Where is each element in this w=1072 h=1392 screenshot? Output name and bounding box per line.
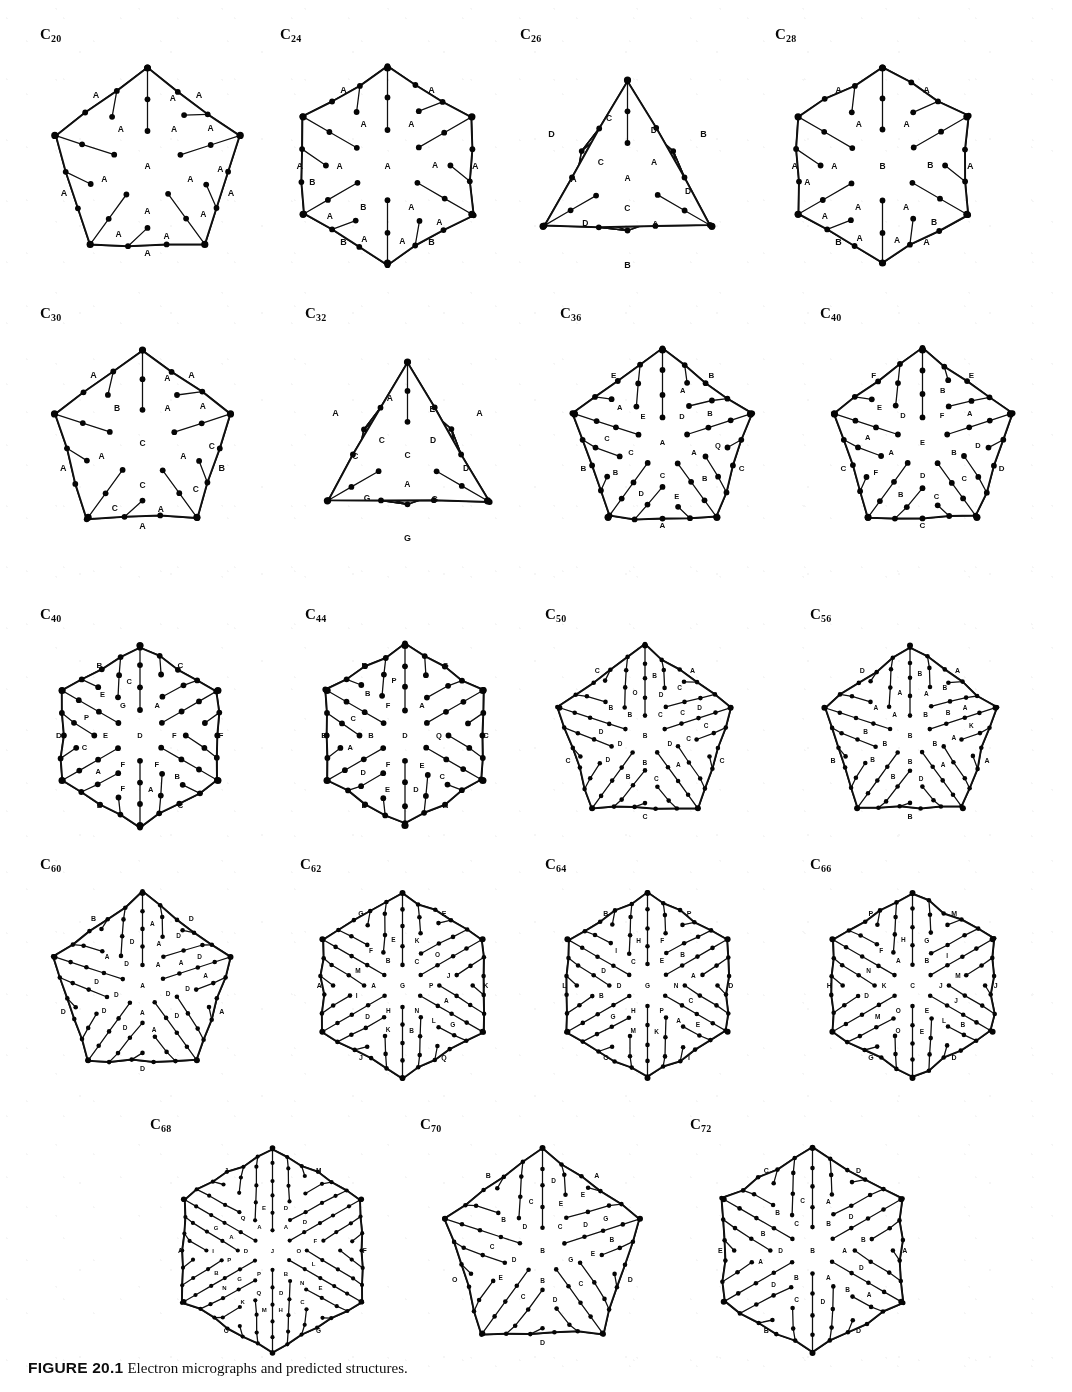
cage-vertex bbox=[145, 225, 151, 231]
face-letter: B bbox=[794, 1274, 799, 1281]
cage-vertex bbox=[286, 1313, 290, 1317]
cage-vertex bbox=[345, 1309, 349, 1313]
cage-vertex bbox=[609, 396, 615, 402]
cage-vertex bbox=[684, 380, 690, 386]
cage-vertex bbox=[870, 1237, 875, 1242]
cage-vertex bbox=[790, 1306, 795, 1311]
schlegel-diagram-c20: AAAAAAAAAAAAAAAAA bbox=[40, 58, 255, 273]
face-letter: P bbox=[429, 982, 434, 989]
outer-face-letter: P bbox=[869, 910, 874, 917]
cage-vertex bbox=[402, 758, 408, 764]
cage-vertex bbox=[412, 243, 418, 249]
face-letter: A bbox=[941, 761, 946, 768]
cage-vertex bbox=[724, 725, 729, 730]
outer-face-letter: C bbox=[920, 521, 926, 530]
cage-vertex bbox=[579, 148, 585, 154]
cage-vertex bbox=[962, 147, 968, 153]
cage-vertex-corner bbox=[181, 1299, 187, 1305]
cage-vertex bbox=[876, 805, 881, 810]
cage-vertex bbox=[175, 918, 180, 923]
cage-vertex bbox=[581, 1021, 586, 1026]
cage-vertex bbox=[850, 1180, 855, 1185]
cage-vertex bbox=[625, 108, 631, 114]
cage-vertex bbox=[980, 1003, 985, 1008]
cage-vertex-corner bbox=[136, 822, 143, 829]
face-letter: K bbox=[654, 1028, 659, 1035]
cage-vertex bbox=[945, 963, 950, 968]
outer-face-letter: K bbox=[483, 982, 488, 989]
cage-vertex bbox=[518, 1241, 523, 1246]
cage-vertex bbox=[709, 398, 715, 404]
outer-face-letter: M bbox=[951, 910, 957, 917]
cage-vertex bbox=[754, 1302, 759, 1307]
face-letter: G bbox=[237, 1276, 242, 1282]
cage-vertex bbox=[960, 496, 966, 502]
cage-vertex bbox=[81, 389, 87, 395]
cage-edge bbox=[890, 669, 891, 687]
face-letter: D bbox=[679, 412, 685, 421]
cage-vertex bbox=[820, 197, 826, 203]
cage-vertex-corner bbox=[973, 514, 980, 521]
cage-vertex bbox=[380, 745, 386, 751]
outer-face-letter: A bbox=[472, 161, 479, 171]
cage-vertex-corner bbox=[51, 132, 58, 139]
cage-vertex bbox=[467, 1285, 472, 1290]
cage-vertex bbox=[897, 361, 903, 367]
cage-vertex bbox=[460, 766, 466, 772]
face-letter: D bbox=[919, 775, 924, 782]
cage-vertex-corner bbox=[725, 936, 731, 942]
cage-vertex bbox=[103, 490, 109, 496]
atom-count-subscript: 72 bbox=[701, 1123, 711, 1134]
cage-vertex bbox=[270, 1285, 274, 1289]
cage-vertex bbox=[446, 733, 452, 739]
cage-vertex bbox=[270, 1335, 274, 1339]
cage-vertex bbox=[850, 1294, 855, 1299]
cage-vertex bbox=[496, 1211, 501, 1216]
cage-vertex bbox=[352, 918, 357, 923]
cage-vertex bbox=[239, 1175, 243, 1179]
outer-face-letter: A bbox=[139, 521, 146, 531]
cage-vertex bbox=[118, 654, 124, 660]
cage-vertex bbox=[422, 653, 428, 659]
face-letter: A bbox=[680, 386, 686, 395]
cage-vertex bbox=[95, 757, 101, 763]
face-letter: B bbox=[501, 1216, 506, 1223]
cage-vertex-corner bbox=[963, 211, 970, 218]
outer-face-letter: D bbox=[61, 1008, 66, 1015]
cage-vertex bbox=[991, 463, 997, 469]
cage-vertex bbox=[424, 695, 430, 701]
outer-face-letter: C bbox=[178, 801, 184, 810]
cage-vertex-corner bbox=[324, 687, 331, 694]
face-letter: A bbox=[856, 233, 862, 243]
cage-vertex bbox=[810, 1184, 815, 1189]
cage-vertex bbox=[607, 1203, 612, 1208]
element-symbol: C bbox=[280, 26, 291, 42]
cage-vertex bbox=[204, 1248, 208, 1252]
schlegel-diagram-c28: BAAAAABBAAAAABAAAA bbox=[775, 58, 990, 273]
cage-vertex bbox=[417, 915, 422, 920]
cage-vertex bbox=[858, 933, 863, 938]
face-letter: L bbox=[432, 1017, 436, 1024]
cage-vertex bbox=[253, 1239, 257, 1243]
cage-vertex-corner bbox=[201, 241, 208, 248]
face-letter: L bbox=[942, 1017, 946, 1024]
cage-vertex bbox=[480, 1253, 485, 1258]
face-letter: B bbox=[599, 992, 604, 999]
cage-vertex bbox=[481, 1188, 486, 1193]
cage-vertex bbox=[225, 169, 231, 175]
cage-vertex bbox=[828, 1338, 833, 1343]
cage-vertex-corner bbox=[795, 113, 802, 120]
atom-count-subscript: 64 bbox=[556, 863, 566, 874]
face-letter: N bbox=[674, 982, 679, 989]
cage-vertex bbox=[728, 417, 734, 423]
face-letter: C bbox=[112, 503, 118, 513]
cage-vertex bbox=[237, 1287, 241, 1291]
cage-vertex bbox=[855, 445, 861, 451]
cage-vertex bbox=[383, 1052, 388, 1057]
cage-edge bbox=[256, 1185, 257, 1202]
cage-vertex bbox=[686, 793, 691, 798]
cage-vertex bbox=[124, 192, 130, 198]
cage-vertex bbox=[576, 731, 581, 736]
face-letter: D bbox=[102, 1007, 107, 1014]
cage-vertex bbox=[623, 727, 628, 732]
